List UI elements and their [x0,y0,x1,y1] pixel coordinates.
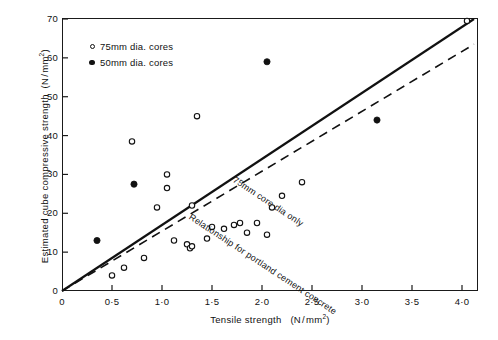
data-point-75mm [164,172,169,177]
y-axis-title: Estimated cube compressive strength (N/m… [38,16,50,296]
data-point-75mm [264,232,269,237]
data-point-75mm [189,244,194,249]
data-point-75mm [189,203,194,208]
y-axis-units-open: (N [39,78,50,89]
data-point-75mm [141,255,146,260]
legend-item-50mm: 50mm dia. cores [84,56,173,69]
x-tick-label: 1·5 [192,296,232,307]
x-axis-title-text: Tensile strength [210,314,281,325]
data-point-75mm [204,236,209,241]
data-point-75mm [279,193,284,198]
y-axis-units-close: ) [39,49,50,52]
figure-root: 010203040506070 00·51·01·52·02·53·03·54·… [0,0,498,340]
data-point-50mm [131,181,137,187]
x-tick-label: 3·0 [342,296,382,307]
y-axis-title-text: Estimated cube compressive strength [39,94,50,263]
data-point-75mm [237,220,242,225]
data-point-75mm [171,238,176,243]
x-tick-label: 0·5 [92,296,132,307]
x-tick-label: 0 [42,296,82,307]
data-point-75mm [464,18,469,23]
filled-circle-icon [84,60,100,66]
legend-label-50mm: 50mm dia. cores [100,57,173,68]
open-circle-icon [84,44,100,49]
data-point-75mm [129,139,134,144]
x-tick-label: 3·5 [392,296,432,307]
x-tick-label: 2·0 [242,296,282,307]
data-point-50mm [264,59,270,65]
x-axis-units-open: (N [290,314,301,325]
x-axis-units-mm: mm [306,314,322,325]
y-axis-units-mm: mm [39,56,50,72]
data-point-75mm [109,273,114,278]
data-point-75mm [154,205,159,210]
x-axis-units-close: ) [326,314,329,325]
plot-canvas [0,0,498,340]
y-axis-units-slash: / [39,73,50,78]
legend-item-75mm: 75mm dia. cores [84,40,173,53]
data-point-75mm [299,180,304,185]
data-point-50mm [374,117,380,123]
x-axis-title: Tensile strength (N/mm2) [62,313,478,325]
data-point-75mm [244,230,249,235]
data-point-75mm [254,220,259,225]
x-tick-label: 4·0 [442,296,482,307]
data-point-75mm [231,222,236,227]
legend: 75mm dia. cores 50mm dia. cores [84,40,173,72]
data-point-75mm [194,113,199,118]
legend-label-75mm: 75mm dia. cores [100,41,173,52]
trend-line-dashed [62,44,474,291]
data-point-50mm [94,237,100,243]
data-point-75mm [164,185,169,190]
x-tick-label: 1·0 [142,296,182,307]
data-point-75mm [121,265,126,270]
y-axis-units-exponent: 2 [38,52,45,56]
